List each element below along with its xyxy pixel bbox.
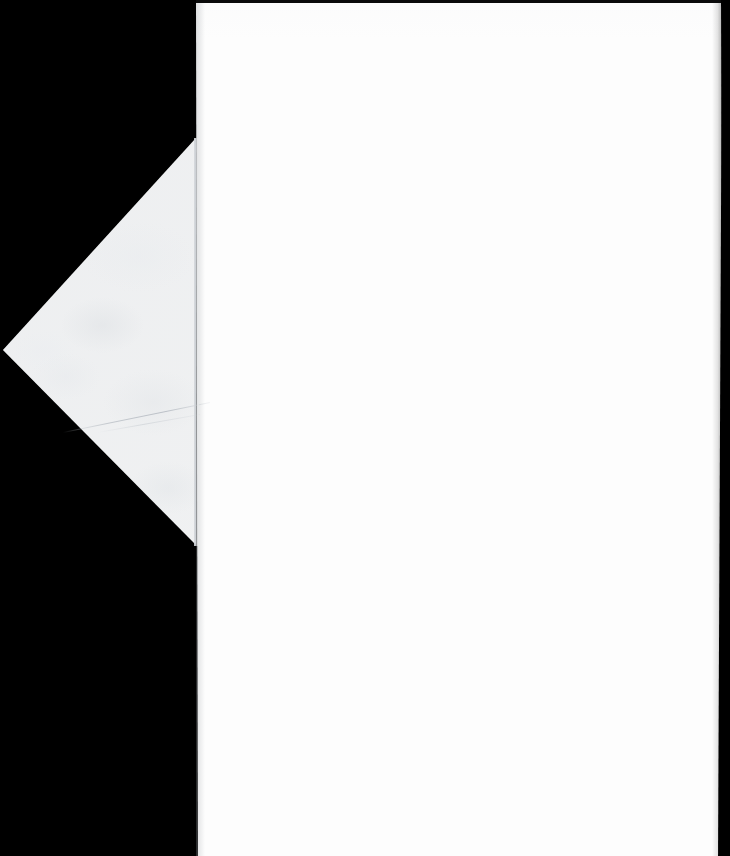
scanned-envelope-image <box>0 0 730 856</box>
